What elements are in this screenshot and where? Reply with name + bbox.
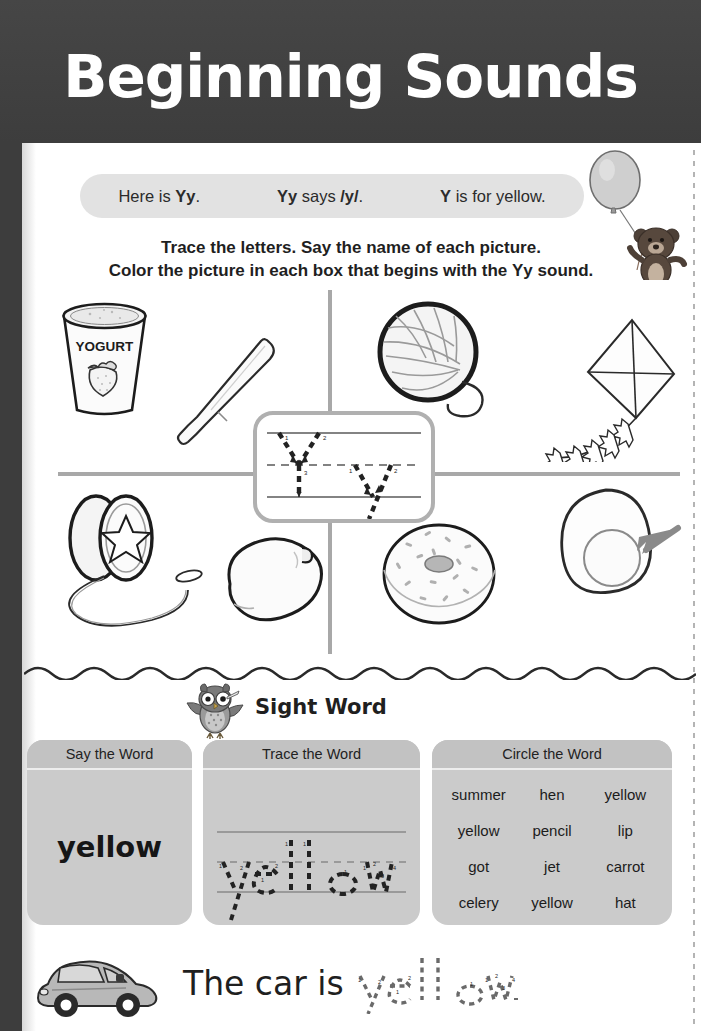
- donut-hole: [425, 556, 453, 572]
- sentence-stroke-5: 1: [470, 981, 473, 987]
- yoyo-string: [69, 576, 188, 626]
- here-is-letter: Yy: [175, 187, 195, 205]
- sound-banner-cell-1: Here is Yy.: [80, 187, 239, 206]
- yarn-ball-icon: [366, 294, 496, 424]
- circle-the-word-panel[interactable]: Circle the Word summer hen yellow yellow…: [432, 740, 672, 925]
- sentence-stroke-4: 2: [408, 975, 411, 981]
- word-option[interactable]: lip: [618, 822, 633, 839]
- says-letter: Yy: [277, 187, 297, 205]
- yoyo-finger-loop: [175, 568, 203, 583]
- trace-stroke-number-5: 1: [285, 841, 288, 847]
- sentence-stroke-3: 1: [396, 989, 399, 995]
- owl-icon: [183, 683, 247, 741]
- word-option[interactable]: celery: [459, 894, 499, 911]
- wavy-divider: [24, 662, 696, 680]
- here-is-text: Here is: [118, 187, 175, 205]
- trace-the-word-title: Trace the Word: [203, 740, 420, 770]
- here-is-period: .: [195, 187, 200, 205]
- sentence-stroke-7: 2: [495, 973, 498, 979]
- bottom-sentence: The car is 1 2 1: [183, 952, 520, 1014]
- is-for-letter: Y: [440, 187, 451, 205]
- sound-banner: Here is Yy. Yy says /y/. Y is for yellow…: [80, 174, 584, 218]
- sentence-stroke-8: 3: [502, 985, 505, 991]
- uppercase-stroke-3-number: 3: [304, 470, 308, 476]
- sentence-stroke-6: 1: [485, 977, 488, 983]
- instruction-letter: Yy: [512, 261, 533, 280]
- header-band: Beginning Sounds: [0, 0, 701, 143]
- say-the-word-title: Say the Word: [27, 740, 192, 770]
- sentence-stroke-2: 2: [378, 979, 381, 985]
- lowercase-stroke-1-number: 1: [349, 468, 353, 474]
- trace-stroke-number-7: 1: [344, 869, 347, 875]
- says-period: .: [359, 187, 364, 205]
- say-the-word-value: yellow: [27, 770, 192, 923]
- trace-the-word-body: 1 2 1 2 1 1 1 1 2 3 4: [203, 770, 420, 923]
- trace-stroke-number-1: 1: [219, 863, 222, 869]
- sentence-stroke-1: 1: [358, 977, 361, 983]
- trace-stroke-number-3: 1: [261, 877, 264, 883]
- kite-icon: [488, 314, 678, 462]
- kite-tail: [544, 418, 636, 462]
- balloon-and-bear-decoration: [565, 148, 701, 280]
- word-choice-grid: summer hen yellow yellow pencil lip got …: [432, 776, 672, 921]
- yogurt-cup-icon: YOGURT: [42, 298, 167, 418]
- word-option[interactable]: hen: [539, 786, 564, 803]
- lemon-icon: [216, 528, 326, 636]
- worksheet-page: Beginning Sounds Here is Yy. Yy says /y/…: [0, 0, 701, 1031]
- trace-stroke-number-9: 2: [373, 861, 376, 867]
- is-for-text: is for yellow.: [451, 187, 545, 205]
- lowercase-stroke-2-number: 2: [394, 468, 398, 474]
- trace-stroke-number-4: 2: [275, 863, 278, 869]
- trace-the-word-panel[interactable]: Trace the Word: [203, 740, 420, 925]
- letter-trace-svg: 1 2 3 1 2: [257, 415, 431, 519]
- trace-stroke-number-11: 4: [393, 865, 396, 871]
- word-option[interactable]: yellow: [458, 822, 500, 839]
- egg-yolk-icon: [546, 480, 696, 620]
- circle-the-word-title: Circle the Word: [432, 740, 672, 770]
- word-option[interactable]: pencil: [532, 822, 571, 839]
- say-the-word-body: yellow: [27, 770, 192, 923]
- sound-banner-cell-2: Yy says /y/.: [239, 187, 402, 206]
- sentence-text: The car is: [183, 964, 344, 1003]
- uppercase-stroke-2-number: 2: [323, 435, 327, 441]
- trace-stroke-number-6: 1: [303, 841, 306, 847]
- yogurt-cup-label: YOGURT: [76, 339, 135, 354]
- circle-the-word-body: summer hen yellow yellow pencil lip got …: [432, 770, 672, 923]
- instruction-line-2-a: Color the picture in each box that begin…: [109, 261, 512, 280]
- word-option[interactable]: got: [468, 858, 489, 875]
- yolk-circle: [584, 530, 640, 586]
- page-title: Beginning Sounds: [0, 48, 701, 106]
- says-text: says: [297, 187, 340, 205]
- sentence-trace-word: 1 2 1 2 1 1 2 3 4: [352, 952, 520, 1014]
- say-the-word-panel[interactable]: Say the Word yellow: [27, 740, 192, 925]
- word-option[interactable]: hat: [615, 894, 636, 911]
- balloon-icon: [590, 151, 640, 213]
- car-windshield: [58, 965, 104, 982]
- car-icon: [30, 948, 166, 1018]
- word-option[interactable]: yellow: [604, 786, 646, 803]
- trace-stroke-number-10: 3: [381, 873, 384, 879]
- sentence-stroke-9: 4: [512, 977, 515, 983]
- word-option[interactable]: yellow: [531, 894, 573, 911]
- sound-banner-cell-3: Y is for yellow.: [402, 187, 584, 206]
- lowercase-y-trace: [355, 465, 391, 519]
- says-sound: /y/: [340, 187, 358, 205]
- car-headlight: [40, 989, 48, 995]
- letter-trace-box[interactable]: 1 2 3 1 2: [253, 411, 435, 523]
- dotted-word-yellow: [223, 840, 392, 920]
- car-mirror: [116, 974, 124, 982]
- uppercase-stroke-1-number: 1: [285, 435, 289, 441]
- word-option[interactable]: summer: [452, 786, 506, 803]
- trace-stroke-number-2: 2: [240, 865, 243, 871]
- teddy-bear-icon: [630, 228, 684, 280]
- trace-stroke-number-8: 1: [363, 865, 366, 871]
- donut-icon: [372, 508, 507, 633]
- word-option[interactable]: carrot: [606, 858, 644, 875]
- trace-the-word-svg: 1 2 1 2 1 1 1 1 2 3 4: [203, 770, 420, 923]
- sight-word-heading: Sight Word: [255, 695, 387, 719]
- word-option[interactable]: jet: [544, 858, 560, 875]
- page-left-edge: [0, 143, 22, 1031]
